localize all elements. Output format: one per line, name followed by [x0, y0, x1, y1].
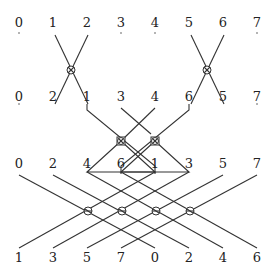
row-2-label: 3 [117, 89, 125, 104]
row-4-label: 5 [83, 250, 91, 265]
row-1-label: 6 [219, 15, 227, 30]
switch-node-top-right [203, 66, 211, 74]
row-3-label: 5 [219, 156, 227, 171]
row-2-label: 6 [185, 89, 193, 104]
row-1-label: 5 [185, 15, 193, 30]
row-1-labels: 0 1 2 3 4 5 6 7 [15, 15, 261, 30]
switch-node-bottom-1 [84, 207, 92, 215]
row-4-label: 3 [49, 250, 57, 265]
row-1-label: 4 [151, 15, 159, 30]
switch-node-bottom-3 [152, 207, 160, 215]
switch-node-mid-left [117, 137, 125, 145]
row-2-label: 1 [83, 89, 91, 104]
row-3-label: 6 [117, 156, 125, 171]
row-3-label: 1 [151, 156, 159, 171]
row-3-label: 0 [15, 156, 23, 171]
row-2-label: 5 [219, 89, 227, 104]
row-2-label: 2 [49, 89, 57, 104]
row-1-label: 1 [49, 15, 57, 30]
permutation-network-diagram: 0 1 2 3 4 5 6 7 0 2 1 3 4 6 5 7 0 2 4 6 … [0, 0, 276, 277]
row-3-label: 3 [185, 156, 193, 171]
row-4-label: 2 [185, 250, 193, 265]
row-1-label: 2 [83, 15, 91, 30]
switch-node-bottom-4 [186, 207, 194, 215]
row-1-label: 7 [253, 15, 261, 30]
row-4-label: 6 [253, 250, 261, 265]
switch-node-bottom-2 [118, 207, 126, 215]
row-2-label: 7 [253, 89, 261, 104]
row-2-label: 4 [151, 89, 159, 104]
row-3-label: 2 [49, 156, 57, 171]
switch-node-top-left [67, 66, 75, 74]
row-4-label: 4 [219, 250, 227, 265]
row-4-label: 1 [15, 250, 23, 265]
row-2-labels: 0 2 1 3 4 6 5 7 [15, 89, 261, 104]
row-3-label: 4 [83, 156, 91, 171]
row-1-label: 3 [117, 15, 125, 30]
row-1-label: 0 [15, 15, 23, 30]
row-3-label: 7 [253, 156, 261, 171]
row-3-labels: 0 2 4 6 1 3 5 7 [15, 156, 261, 171]
row-2-label: 0 [15, 89, 23, 104]
connection-lines [19, 35, 257, 248]
row-4-label: 7 [117, 250, 125, 265]
row-4-label: 0 [151, 250, 159, 265]
switch-node-mid-right [151, 137, 159, 145]
row-4-labels: 1 3 5 7 0 2 4 6 [15, 250, 261, 265]
